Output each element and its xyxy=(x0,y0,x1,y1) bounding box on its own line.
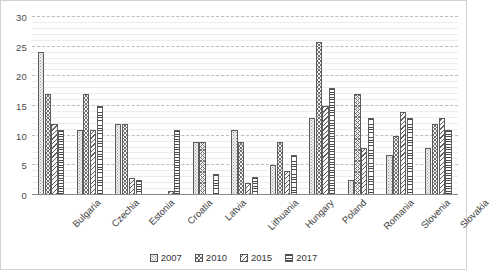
bar xyxy=(231,130,237,195)
bar xyxy=(348,180,354,195)
bar-group xyxy=(231,17,258,195)
bars-layer xyxy=(32,17,458,195)
bar xyxy=(193,142,199,195)
bar-group xyxy=(77,17,104,195)
x-axis-line xyxy=(32,194,458,195)
bar xyxy=(393,136,399,195)
bar xyxy=(316,42,322,195)
legend-swatch-icon xyxy=(285,254,293,262)
bar-group xyxy=(348,17,375,195)
x-axis-labels: BulgariaCzechiaEstoniaCroatiaLatviaLithu… xyxy=(32,197,458,249)
chart-legend: 2007201020152017 xyxy=(1,252,466,263)
y-axis: 051015202530 xyxy=(1,1,32,195)
bar xyxy=(122,124,128,195)
bar xyxy=(329,88,335,195)
bar xyxy=(386,155,392,195)
y-axis-tick-label: 20 xyxy=(16,71,27,82)
bar xyxy=(407,118,413,195)
y-axis-tick-label: 30 xyxy=(16,12,27,23)
bar xyxy=(322,106,328,195)
bar xyxy=(97,106,103,195)
x-axis-tick-label: Slovenia xyxy=(419,197,453,231)
bar xyxy=(83,94,89,195)
x-axis-tick-label: Czechia xyxy=(109,197,141,229)
bar xyxy=(309,118,315,195)
legend-label: 2017 xyxy=(296,252,317,263)
bar xyxy=(270,165,276,195)
legend-item[interactable]: 2017 xyxy=(285,252,317,263)
bar xyxy=(136,180,142,195)
legend-item[interactable]: 2015 xyxy=(240,252,272,263)
y-axis-tick-label: 15 xyxy=(16,101,27,112)
x-axis-tick-label: Lithuania xyxy=(265,197,300,232)
x-axis-tick-label: Romania xyxy=(381,197,416,232)
y-axis-tick-label: 0 xyxy=(22,190,27,201)
x-axis-tick-label: Latvia xyxy=(222,197,248,223)
x-axis-tick-label: Hungary xyxy=(303,197,336,230)
bar-group xyxy=(38,17,65,195)
bar-group xyxy=(386,17,413,195)
bar xyxy=(58,130,64,195)
legend-item[interactable]: 2007 xyxy=(150,252,182,263)
legend-swatch-icon xyxy=(150,254,158,262)
legend-item[interactable]: 2010 xyxy=(195,252,227,263)
x-axis-tick-label: Poland xyxy=(340,197,369,226)
bar xyxy=(277,142,283,195)
bar xyxy=(252,177,258,195)
bar-group xyxy=(115,17,142,195)
bar xyxy=(361,148,367,195)
x-axis-tick-label: Croatia xyxy=(185,197,214,226)
y-axis-tick-label: 10 xyxy=(16,130,27,141)
bar xyxy=(445,130,451,195)
bar xyxy=(400,112,406,195)
bar xyxy=(432,124,438,195)
legend-label: 2015 xyxy=(251,252,272,263)
bar xyxy=(439,118,445,195)
bar xyxy=(51,124,57,195)
bar xyxy=(77,130,83,195)
plot-area xyxy=(32,17,458,195)
bar xyxy=(284,171,290,195)
bar xyxy=(291,155,297,195)
bar xyxy=(213,174,219,195)
bar xyxy=(238,142,244,195)
bar xyxy=(354,94,360,195)
bar xyxy=(129,178,135,195)
y-axis-tick-label: 5 xyxy=(22,160,27,171)
bar xyxy=(45,94,51,195)
bar-group xyxy=(425,17,452,195)
legend-label: 2010 xyxy=(206,252,227,263)
bar xyxy=(425,148,431,195)
bar-group xyxy=(309,17,336,195)
x-axis-tick-label: Bulgaria xyxy=(70,197,102,229)
bar xyxy=(174,130,180,195)
bar xyxy=(38,52,44,195)
bar xyxy=(90,130,96,195)
bar-group xyxy=(154,17,181,195)
bar-group xyxy=(270,17,297,195)
x-axis-tick-label: Estonia xyxy=(147,197,177,227)
bar xyxy=(199,142,205,195)
bar-group xyxy=(193,17,220,195)
legend-swatch-icon xyxy=(240,254,248,262)
legend-swatch-icon xyxy=(195,254,203,262)
legend-label: 2007 xyxy=(161,252,182,263)
y-axis-tick-label: 25 xyxy=(16,41,27,52)
bar xyxy=(115,124,121,195)
bar xyxy=(368,118,374,195)
x-axis-tick-label: Slovakia xyxy=(458,197,491,230)
